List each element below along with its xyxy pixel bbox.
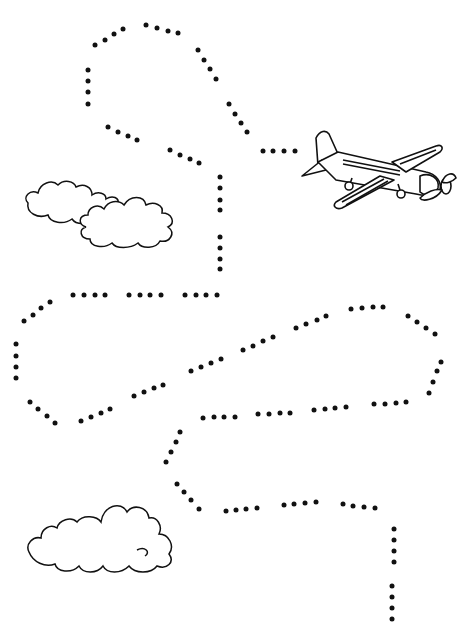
path-dot [292, 502, 297, 507]
path-dot [174, 440, 179, 445]
path-dot [351, 504, 356, 509]
path-dot [282, 503, 287, 508]
path-dot [315, 318, 320, 323]
path-dot [381, 305, 386, 310]
path-dot [161, 383, 166, 388]
path-dot [14, 365, 19, 370]
path-dot [169, 450, 174, 455]
path-dot [278, 411, 283, 416]
path-dot [14, 342, 19, 347]
path-dot [189, 498, 194, 503]
path-dot [39, 306, 44, 311]
path-dot [219, 357, 224, 362]
path-dot [435, 369, 440, 374]
path-dot [166, 29, 171, 34]
path-dot [194, 293, 199, 298]
path-dot [234, 508, 239, 513]
path-dot [255, 506, 260, 511]
path-dot [224, 509, 229, 514]
path-dot [267, 412, 272, 417]
path-dot [390, 617, 395, 622]
path-dot [390, 606, 395, 611]
path-dot [415, 320, 420, 325]
path-dot [45, 414, 50, 419]
path-dot [176, 31, 181, 36]
path-dot [406, 314, 411, 319]
path-dot [132, 394, 137, 399]
path-dot [142, 390, 147, 395]
path-dot [256, 412, 261, 417]
path-dot [116, 130, 121, 135]
path-dot [178, 430, 183, 435]
path-dot [155, 26, 160, 31]
path-dot [392, 549, 397, 554]
path-dot [93, 293, 98, 298]
path-dot [106, 125, 111, 130]
path-dot [14, 376, 19, 381]
path-dot [282, 149, 287, 154]
path-dot [126, 134, 131, 139]
path-dot [175, 482, 180, 487]
path-dot [372, 402, 377, 407]
path-dot [392, 527, 397, 532]
path-dot [314, 500, 319, 505]
path-dot [244, 507, 249, 512]
path-dot [138, 293, 143, 298]
path-dot [212, 415, 217, 420]
path-dot [373, 506, 378, 511]
path-dot [261, 339, 266, 344]
path-dot [36, 407, 41, 412]
path-dot [197, 161, 202, 166]
path-dot [127, 293, 132, 298]
path-dot [324, 314, 329, 319]
path-dot [294, 326, 299, 331]
path-dot [53, 421, 58, 426]
path-dot [201, 416, 206, 421]
path-dot [79, 419, 84, 424]
path-dot [159, 293, 164, 298]
path-dot [333, 406, 338, 411]
path-dot [99, 411, 104, 416]
path-dot [86, 79, 91, 84]
path-dot [394, 401, 399, 406]
path-dot [304, 322, 309, 327]
path-dot [239, 121, 244, 126]
path-dot [188, 157, 193, 162]
path-dot [144, 23, 149, 28]
path-dot [93, 43, 98, 48]
path-dot [204, 293, 209, 298]
path-dot [312, 408, 317, 413]
path-dot [197, 507, 202, 512]
path-dot [218, 257, 223, 262]
path-dot [288, 411, 293, 416]
path-dot [227, 102, 232, 107]
path-dot [362, 505, 367, 510]
path-dot [199, 365, 204, 370]
path-dot [233, 415, 238, 420]
path-dot [303, 501, 308, 506]
path-dot [433, 332, 438, 337]
airplane-icon [296, 126, 462, 212]
path-dot [383, 402, 388, 407]
path-dot [48, 300, 53, 305]
path-dot [14, 354, 19, 359]
path-dot [28, 400, 33, 405]
path-dot [86, 68, 91, 73]
path-dot [208, 67, 213, 72]
path-dot [241, 348, 246, 353]
path-dot [349, 307, 354, 312]
cloud-icon [20, 175, 196, 261]
path-dot [103, 293, 108, 298]
path-dot [164, 460, 169, 465]
path-dot [293, 149, 298, 154]
cloud-icon [25, 496, 181, 578]
path-dot [178, 153, 183, 158]
path-dot [108, 407, 113, 412]
path-dot [323, 407, 328, 412]
path-dot [89, 415, 94, 420]
path-dot [103, 38, 108, 43]
path-dot [112, 32, 117, 37]
path-dot [341, 502, 346, 507]
path-dot [392, 538, 397, 543]
path-dot [168, 148, 173, 153]
